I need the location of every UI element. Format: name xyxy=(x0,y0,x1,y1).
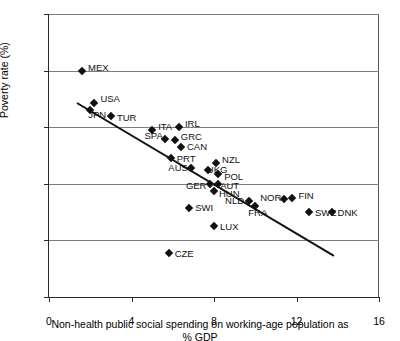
poverty-spending-scatter-chart: Poverty rate (%) 048121620 0481216 MEXUS… xyxy=(0,0,400,341)
point-label-lux: LUX xyxy=(220,222,238,232)
diamond-marker-icon xyxy=(177,143,185,151)
point-label-ger: GER xyxy=(186,181,207,191)
y-tick-mark-20 xyxy=(44,14,49,15)
x-tick-mark-0 xyxy=(49,297,50,302)
diamond-marker-icon xyxy=(171,136,179,144)
diamond-marker-icon xyxy=(305,208,313,216)
y-tick-mark-8 xyxy=(44,184,49,185)
x-axis-label: Non-health public social spending on wor… xyxy=(0,318,400,341)
x-tick-mark-16 xyxy=(379,297,380,302)
point-label-usa: USA xyxy=(100,94,120,104)
plot-right-border xyxy=(378,14,379,297)
point-label-irl: IRL xyxy=(185,119,200,129)
point-label-cze: CZE xyxy=(175,249,194,259)
diamond-marker-icon xyxy=(288,194,296,202)
point-label-dnk: DNK xyxy=(338,208,358,218)
x-axis-label-line2: % GDP xyxy=(0,331,400,341)
diamond-marker-icon xyxy=(210,222,218,230)
gridline-y-12 xyxy=(49,127,379,128)
point-label-nor: NOR xyxy=(260,193,281,203)
trend-line xyxy=(76,102,334,257)
point-label-grc: GRC xyxy=(181,132,202,142)
diamond-marker-icon xyxy=(185,204,193,212)
x-tick-mark-12 xyxy=(297,297,298,302)
x-axis-label-line1: Non-health public social spending on wor… xyxy=(0,318,400,331)
y-tick-mark-4 xyxy=(44,240,49,241)
point-label-tur: TUR xyxy=(117,113,137,123)
point-label-spa: SPA xyxy=(145,131,163,141)
point-label-mex: MEX xyxy=(88,63,109,73)
diamond-marker-icon xyxy=(107,112,115,120)
x-tick-mark-8 xyxy=(214,297,215,302)
point-label-can: CAN xyxy=(187,142,207,152)
y-axis-label: Poverty rate (%) xyxy=(0,42,10,118)
diamond-marker-icon xyxy=(90,99,98,107)
plot-area: 048121620 0481216 MEXUSAJPNTURITAIRLSPAG… xyxy=(48,14,379,298)
point-label-fin: FIN xyxy=(298,191,313,201)
point-label-swi: SWI xyxy=(195,203,213,213)
y-tick-mark-12 xyxy=(44,127,49,128)
gridline-y-4 xyxy=(49,240,379,241)
diamond-marker-icon xyxy=(164,249,172,257)
gridline-y-20 xyxy=(49,14,379,15)
y-tick-mark-16 xyxy=(44,71,49,72)
x-tick-mark-4 xyxy=(132,297,133,302)
diamond-marker-icon xyxy=(78,66,86,74)
point-label-nzl: NZL xyxy=(222,155,240,165)
